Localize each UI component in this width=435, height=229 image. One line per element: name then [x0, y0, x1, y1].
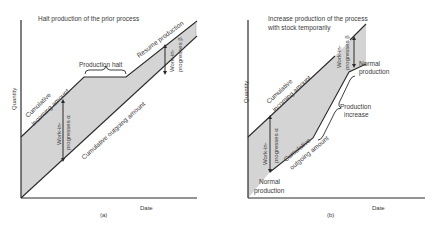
wip-alpha-label-a-1: Work-in-	[56, 122, 62, 145]
wip-beta-label-a-2: progresses β	[177, 37, 183, 72]
caption-a: (a)	[100, 212, 107, 218]
normal-top-label-2: production	[359, 68, 390, 76]
panel-b-title-2: with stock temporarily	[267, 24, 331, 32]
normal-bottom-label-2: production	[254, 187, 285, 195]
x-axis-label-a: Date	[140, 205, 153, 211]
caption-b: (b)	[327, 212, 334, 218]
diagram-canvas: Halt production of the prior process Qua…	[0, 0, 435, 229]
normal-bottom-label-1: Normal	[259, 178, 281, 185]
panel-a-title: Halt production of the prior process	[38, 15, 140, 23]
panel-a: Halt production of the prior process Qua…	[11, 15, 197, 218]
wip-alpha-label-b-1: Work-in-	[262, 142, 268, 165]
wip-alpha-label-b-2: progresses α	[273, 128, 279, 163]
halt-label: Production halt	[79, 61, 123, 68]
wip-beta-label-b-2: progresses β	[344, 35, 350, 70]
wip-beta-label-b-1: Work-in-	[336, 45, 342, 68]
wip-alpha-label-a-2: progresses α	[65, 115, 71, 150]
panel-b-title-1: Increase production of the process	[268, 15, 368, 23]
increase-label-1: Production	[340, 103, 371, 110]
increase-label-2: increase	[344, 111, 369, 118]
x-axis-label-b: Date	[372, 205, 385, 211]
wip-beta-label-a-1: Work-in-	[169, 49, 175, 72]
y-axis-label-b: Quantity	[243, 81, 249, 103]
normal-top-label-1: Normal	[359, 60, 381, 67]
panel-b: Increase production of the process with …	[243, 15, 425, 218]
y-axis-label-a: Quantity	[11, 88, 17, 110]
